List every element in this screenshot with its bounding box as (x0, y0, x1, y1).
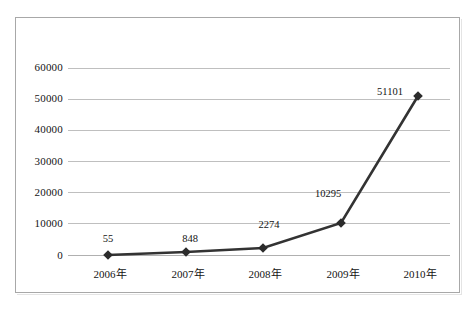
chart-figure: 60000 50000 40000 30000 20000 10000 0 55… (0, 0, 474, 311)
x-tick-label-2007: 2007年 (153, 268, 223, 281)
data-label-2006: 55 (68, 233, 148, 244)
data-label-2007: 848 (150, 233, 230, 244)
x-tick-label-2008: 2008年 (230, 268, 300, 281)
x-tick-label-2006: 2006年 (75, 268, 145, 281)
data-label-2010: 51101 (350, 86, 430, 97)
data-value-labels: 55 848 2274 10295 51101 (0, 0, 474, 311)
x-axis: 2006年 2007年 2008年 2009年 2010年 (0, 268, 474, 288)
x-tick-label-2009: 2009年 (308, 268, 378, 281)
data-label-2009: 10295 (288, 188, 368, 199)
x-tick-label-2010: 2010年 (385, 268, 455, 281)
data-label-2008: 2274 (229, 219, 309, 230)
